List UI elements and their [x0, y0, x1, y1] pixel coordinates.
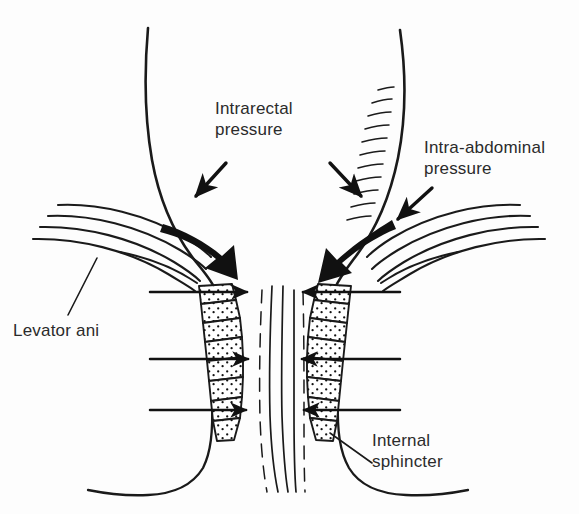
- intra-abdominal-pressure-arrow: [330, 163, 361, 196]
- label-intra-abdominal-pressure: Intra-abdominal pressure: [424, 137, 545, 179]
- thick-force-arrow-right: [318, 220, 396, 283]
- levator-ani-right-fibres: [367, 205, 545, 291]
- leader-line-internal-sphincter: [330, 433, 372, 463]
- anorectal-diagram: [0, 0, 579, 514]
- label-levator-ani: Levator ani: [13, 320, 99, 341]
- internal-sphincter-left: [199, 284, 243, 441]
- leader-line-levator-ani: [68, 258, 97, 315]
- diagram-page: Intrarectal pressure Intra-abdominal pre…: [0, 0, 579, 514]
- anal-canal-mucosa-lines: [270, 286, 296, 492]
- anal-canal-left-wall: [88, 289, 215, 495]
- internal-sphincter-right: [307, 284, 351, 441]
- label-internal-sphincter: Internal sphincter: [372, 430, 443, 472]
- label-intrarectal-pressure: Intrarectal pressure: [215, 98, 293, 140]
- intrarectal-pressure-arrow: [196, 163, 226, 196]
- intra-abdominal-pressure-arrow-2: [398, 188, 432, 219]
- thick-force-arrow-left: [160, 224, 238, 280]
- rectal-wall-right: [335, 30, 404, 288]
